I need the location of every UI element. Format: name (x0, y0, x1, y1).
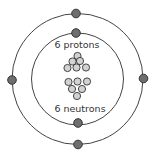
neutron (68, 85, 75, 92)
electron (72, 9, 81, 18)
electron (74, 119, 83, 128)
proton (64, 64, 71, 71)
atom-diagram: 6 protons 6 neutrons (0, 0, 155, 157)
proton (73, 64, 80, 71)
proton (82, 64, 89, 71)
electron (8, 76, 17, 85)
electron (139, 74, 148, 83)
protons-label: 6 protons (54, 39, 99, 50)
neutron (83, 78, 90, 85)
neutrons-cluster (65, 78, 91, 100)
protons-cluster (64, 52, 90, 71)
neutrons-label: 6 neutrons (54, 103, 105, 114)
neutron (65, 78, 72, 85)
proton (76, 57, 83, 64)
neutron (78, 85, 85, 92)
neutron (74, 78, 81, 85)
neutron (73, 92, 80, 99)
electron (74, 140, 83, 149)
electron (72, 29, 81, 38)
